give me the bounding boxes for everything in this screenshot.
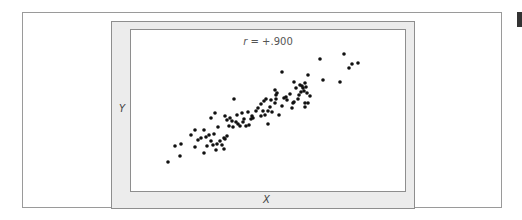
data-point	[232, 97, 236, 101]
data-point	[196, 138, 200, 142]
data-point	[275, 91, 279, 95]
data-point	[338, 80, 342, 84]
data-point	[202, 128, 206, 132]
data-point	[296, 97, 300, 101]
data-point	[247, 123, 251, 127]
data-point	[246, 110, 250, 114]
data-point	[173, 144, 177, 148]
data-point	[301, 86, 305, 90]
data-point	[277, 113, 281, 117]
data-point	[280, 104, 284, 108]
data-point	[223, 137, 227, 141]
data-point	[205, 144, 209, 148]
data-point	[294, 86, 298, 90]
data-point	[231, 125, 235, 129]
data-point	[356, 61, 360, 65]
data-point	[280, 70, 284, 74]
data-point	[306, 73, 310, 77]
data-point	[240, 111, 244, 115]
data-point	[238, 124, 242, 128]
data-point	[225, 134, 229, 138]
data-point	[212, 132, 216, 136]
data-point	[241, 120, 245, 124]
data-point	[273, 88, 277, 92]
data-point	[202, 151, 206, 155]
data-point	[303, 101, 307, 105]
data-point	[342, 52, 346, 56]
data-point	[178, 154, 182, 158]
data-point	[266, 109, 270, 113]
data-point	[209, 116, 213, 120]
data-point	[303, 105, 307, 109]
data-point	[204, 135, 208, 139]
data-point	[292, 80, 296, 84]
data-point	[199, 136, 203, 140]
data-point	[225, 118, 229, 122]
data-point	[318, 57, 322, 61]
data-point	[269, 98, 273, 102]
data-point	[297, 93, 301, 97]
data-point	[179, 142, 183, 146]
data-point	[350, 62, 354, 66]
data-point	[259, 114, 263, 118]
data-point	[274, 97, 278, 101]
data-point	[347, 66, 351, 70]
data-point	[292, 100, 296, 104]
data-point	[264, 97, 268, 101]
data-point	[223, 114, 227, 118]
data-point	[235, 113, 239, 117]
data-point	[227, 124, 231, 128]
data-point	[308, 94, 312, 98]
data-point	[288, 92, 292, 96]
data-point	[209, 139, 213, 143]
data-point	[228, 116, 232, 120]
data-point	[193, 145, 197, 149]
data-point	[303, 81, 307, 85]
data-point	[263, 113, 267, 117]
data-point	[256, 106, 260, 110]
data-point	[254, 109, 258, 113]
data-point	[166, 160, 170, 164]
data-point	[220, 143, 224, 147]
data-point	[215, 142, 219, 146]
data-point	[211, 143, 215, 147]
data-point	[222, 147, 226, 151]
data-point	[305, 91, 309, 95]
data-point	[193, 128, 197, 132]
data-point	[285, 98, 289, 102]
data-point	[207, 133, 211, 137]
scatter-points	[0, 0, 522, 220]
data-point	[273, 101, 277, 105]
data-point	[230, 119, 234, 123]
data-point	[266, 122, 270, 126]
data-point	[321, 78, 325, 82]
data-point	[259, 102, 263, 106]
data-point	[268, 105, 272, 109]
data-point	[270, 110, 274, 114]
data-point	[189, 133, 193, 137]
data-point	[290, 106, 294, 110]
data-point	[213, 111, 217, 115]
data-point	[214, 148, 218, 152]
data-point	[218, 139, 222, 143]
data-point	[251, 116, 255, 120]
data-point	[261, 109, 265, 113]
data-point	[216, 125, 220, 129]
